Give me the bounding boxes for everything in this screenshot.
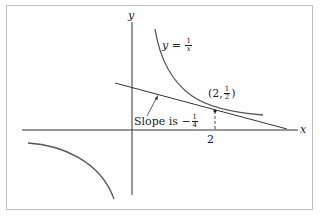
slope-label-fraction: 14 xyxy=(192,114,198,129)
x-axis-label: x xyxy=(300,124,306,135)
slope-pointer-arrowhead xyxy=(155,95,159,100)
y-axis-label: y xyxy=(128,10,134,21)
curve-frac-den: x xyxy=(186,46,192,53)
point-label-fraction: 12 xyxy=(224,86,230,101)
point-label-close: ) xyxy=(231,87,235,100)
plot-canvas xyxy=(0,0,320,217)
slope-label: Slope is −14 xyxy=(134,114,199,129)
curve-equation-prefix: y = xyxy=(162,39,181,52)
curve-equation-fraction: 1 x xyxy=(185,38,191,53)
curve-equation-label: y = 1 x xyxy=(162,38,193,53)
tangent-point xyxy=(213,109,216,112)
hyperbola-lower-branch xyxy=(28,143,114,199)
point-frac-den: 2 xyxy=(224,94,230,101)
slope-frac-den: 4 xyxy=(192,122,198,129)
slope-label-prefix: Slope is − xyxy=(134,115,191,128)
point-label: (2,12) xyxy=(208,86,236,101)
point-label-open: (2, xyxy=(208,87,223,100)
x-tick-label-2: 2 xyxy=(207,134,214,145)
